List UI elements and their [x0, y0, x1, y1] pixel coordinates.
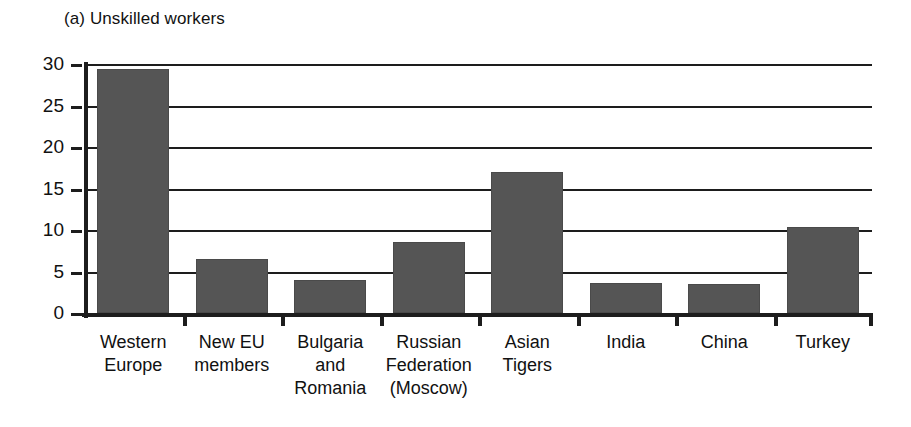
category-label: China	[675, 331, 774, 354]
y-tick-mark-20	[71, 147, 82, 150]
y-tick-mark-25	[71, 106, 82, 109]
y-tick-label-10: 10	[43, 220, 64, 239]
chart-title: (a) Unskilled workers	[64, 9, 225, 29]
category-label-line: Asian	[478, 331, 577, 354]
category-label-line: and	[281, 354, 380, 377]
category-label-line: New EU	[183, 331, 282, 354]
y-tick-label-5: 5	[53, 262, 64, 281]
category-label: India	[577, 331, 676, 354]
category-label-line: members	[183, 354, 282, 377]
category-label: New EUmembers	[183, 331, 282, 377]
y-tick-label-25: 25	[43, 96, 64, 115]
bar	[393, 242, 465, 313]
category-label: BulgariaandRomania	[281, 331, 380, 400]
category-label: AsianTigers	[478, 331, 577, 377]
category-label: RussianFederation(Moscow)	[380, 331, 479, 400]
category-label-line: Bulgaria	[281, 331, 380, 354]
bar	[294, 280, 366, 313]
category-label-line: Europe	[84, 354, 183, 377]
bar-series	[84, 64, 872, 313]
category-label-line: (Moscow)	[380, 377, 479, 400]
x-tick-mark	[183, 313, 187, 326]
y-tick-label-30: 30	[43, 54, 64, 73]
x-tick-mark	[281, 313, 285, 326]
category-label-line: India	[577, 331, 676, 354]
y-tick-mark-30	[71, 64, 82, 67]
x-axis-right-edge-tick	[869, 313, 873, 326]
y-tick-mark-5	[71, 272, 82, 275]
x-tick-mark	[478, 313, 482, 326]
x-tick-mark	[577, 313, 581, 326]
bar	[590, 283, 662, 313]
x-tick-mark	[675, 313, 679, 326]
y-tick-mark-10	[71, 230, 82, 233]
y-tick-label-20: 20	[43, 137, 64, 156]
x-tick-mark	[774, 313, 778, 326]
category-label-line: Tigers	[478, 354, 577, 377]
y-tick-label-0: 0	[53, 303, 64, 322]
category-label-line: Federation	[380, 354, 479, 377]
y-tick-label-15: 15	[43, 179, 64, 198]
category-label-line: Romania	[281, 377, 380, 400]
category-label: Turkey	[774, 331, 873, 354]
category-label-line: Western	[84, 331, 183, 354]
y-tick-mark-0	[71, 313, 82, 316]
y-tick-mark-15	[71, 189, 82, 192]
bar	[97, 69, 169, 313]
x-axis-line	[82, 313, 872, 317]
category-label-line: Turkey	[774, 331, 873, 354]
category-label: WesternEurope	[84, 331, 183, 377]
y-axis-tick-labels: 051015202530	[14, 0, 64, 427]
bar-chart-figure: (a) Unskilled workers 051015202530 Weste…	[0, 0, 911, 427]
category-label-line: China	[675, 331, 774, 354]
bar	[787, 227, 859, 313]
bar	[196, 259, 268, 313]
x-tick-mark	[380, 313, 384, 326]
category-label-line: Russian	[380, 331, 479, 354]
bar	[688, 284, 760, 313]
bar	[491, 172, 563, 313]
